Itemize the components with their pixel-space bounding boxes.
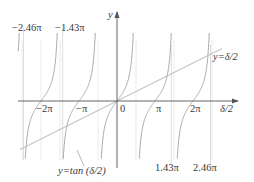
tick-mpi: −π [76, 104, 87, 115]
tick-2pi: 2π [190, 104, 201, 115]
tick-pi: π [156, 104, 161, 115]
tick-zero: 0 [120, 104, 125, 115]
tick-m2pi: −2π [36, 104, 52, 115]
root-label-143: 1.43π [155, 163, 179, 174]
linear-line [20, 49, 222, 150]
tan-curve [18, 33, 209, 159]
line-label: y=δ/2 [213, 52, 238, 63]
y-axis-label: y [108, 10, 113, 21]
tan-label-pointer [77, 150, 84, 166]
root-label-m143: −1.43π [55, 23, 85, 34]
root-label-246: 2.46π [193, 163, 217, 174]
x-axis-label: δ/2 [220, 104, 233, 115]
tan-label: y=tan (δ/2) [58, 166, 106, 177]
root-label-m246: −2.46π [12, 23, 42, 34]
